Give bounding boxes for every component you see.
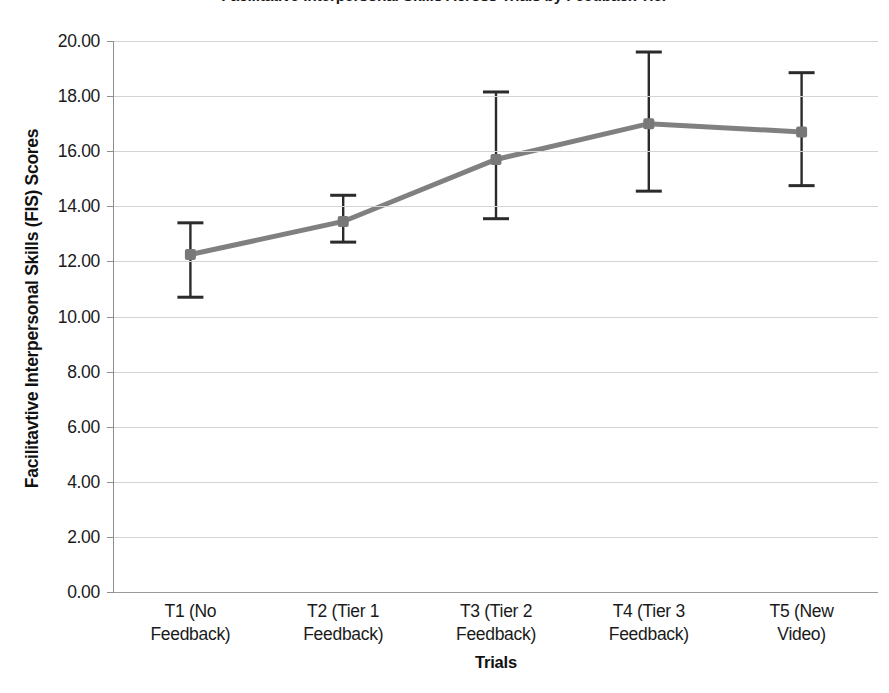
error-bar	[177, 223, 203, 297]
gridline	[114, 592, 878, 593]
y-axis-tick	[107, 41, 114, 42]
chart-title: Facilitative Interpersonal Skills Across…	[0, 0, 889, 7]
y-axis-tick-label: 2.00	[26, 527, 100, 548]
data-point-marker	[643, 118, 654, 129]
y-axis-tick	[107, 537, 114, 538]
y-axis-tick-label: 8.00	[26, 362, 100, 383]
gridline	[114, 372, 878, 373]
y-axis-tick	[107, 372, 114, 373]
gridline	[114, 261, 878, 262]
y-axis-tick	[107, 261, 114, 262]
y-axis-tick	[107, 427, 114, 428]
y-axis-tick	[107, 592, 114, 593]
x-axis-category-label: T1 (NoFeedback)	[114, 600, 267, 646]
gridline	[114, 537, 878, 538]
y-axis-tick-label: 20.00	[26, 31, 100, 52]
y-axis-tick	[107, 96, 114, 97]
gridline	[114, 427, 878, 428]
x-axis-category-label: T2 (Tier 1Feedback)	[267, 600, 420, 646]
gridline	[114, 151, 878, 152]
fis-scores-line-chart: Facilitative Interpersonal Skills Across…	[0, 0, 889, 693]
y-axis-tick-label: 12.00	[26, 251, 100, 272]
gridline	[114, 482, 878, 483]
y-axis-tick-label: 4.00	[26, 472, 100, 493]
x-axis-category-label: T3 (Tier 2Feedback)	[420, 600, 573, 646]
data-point-marker	[185, 249, 196, 260]
gridline	[114, 41, 878, 42]
y-axis-tick-label: 10.00	[26, 307, 100, 328]
y-axis-tick-label: 18.00	[26, 86, 100, 107]
y-axis-tick	[107, 317, 114, 318]
data-point-marker	[491, 154, 502, 165]
y-axis-tick-label: 6.00	[26, 417, 100, 438]
gridline	[114, 206, 878, 207]
y-axis-tick-label: 0.00	[26, 582, 100, 603]
x-axis-category-labels: T1 (NoFeedback)T2 (Tier 1Feedback)T3 (Ti…	[114, 600, 878, 656]
plot-area	[114, 41, 878, 592]
data-point-marker	[338, 216, 349, 227]
y-axis-tick-label: 14.00	[26, 196, 100, 217]
x-axis-category-label: T5 (NewVideo)	[725, 600, 878, 646]
x-axis-category-label: T4 (Tier 3Feedback)	[572, 600, 725, 646]
y-axis-tick	[107, 482, 114, 483]
y-axis-tick	[107, 151, 114, 152]
y-axis-tick	[107, 206, 114, 207]
x-axis-title: Trials	[114, 653, 878, 672]
y-axis-tick-label: 16.00	[26, 141, 100, 162]
gridline	[114, 317, 878, 318]
data-point-marker	[796, 126, 807, 137]
gridline	[114, 96, 878, 97]
